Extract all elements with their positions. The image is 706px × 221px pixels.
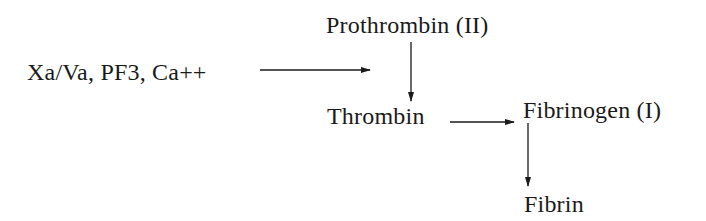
arrows-layer: [0, 0, 706, 221]
